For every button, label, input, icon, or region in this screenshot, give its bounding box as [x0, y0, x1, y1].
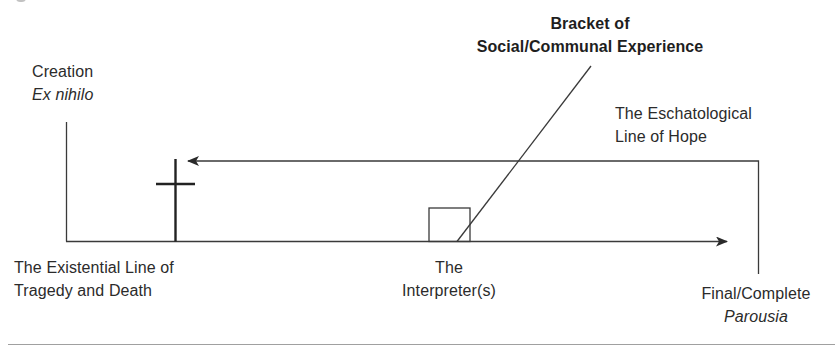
bracket-subtitle: Social/Communal Experience [461, 35, 719, 58]
eschatological-subtitle: Line of Hope [615, 125, 752, 148]
eschatological-title: The Eschatological [615, 102, 752, 125]
creation-title: Creation [32, 60, 93, 83]
final-label: Final/Complete Parousia [690, 282, 822, 328]
bracket-title: Bracket of [461, 12, 719, 35]
final-subtitle: Parousia [690, 305, 822, 328]
existential-title: The Existential Line of [14, 256, 174, 279]
interpreter-subtitle: Interpreter(s) [396, 279, 502, 302]
eschatological-label: The Eschatological Line of Hope [615, 102, 752, 148]
cross-icon [156, 159, 195, 242]
bracket-label: Bracket of Social/Communal Experience [461, 12, 719, 58]
theology-timeline-diagram: Creation Ex nihilo Bracket of Social/Com… [0, 0, 835, 348]
interpreter-box [429, 208, 470, 242]
existential-subtitle: Tragedy and Death [14, 279, 174, 302]
existential-label: The Existential Line of Tragedy and Deat… [14, 256, 174, 302]
creation-subtitle: Ex nihilo [32, 83, 93, 106]
interpreter-title: The [396, 256, 502, 279]
bracket-pointer-line [457, 66, 591, 242]
final-title: Final/Complete [690, 282, 822, 305]
interpreter-label: The Interpreter(s) [396, 256, 502, 302]
creation-label: Creation Ex nihilo [32, 60, 93, 106]
